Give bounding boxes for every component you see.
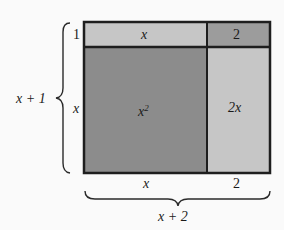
label-top-left: x	[141, 28, 147, 42]
bottom-brace-icon	[85, 191, 270, 206]
label-bottom-total: x + 2	[158, 210, 188, 224]
label-col-right: 2	[233, 177, 240, 191]
label-row-top: 1	[73, 28, 80, 42]
label-left-total: x + 1	[16, 92, 46, 106]
label-bottom-right: 2x	[228, 101, 241, 115]
label-row-bottom: x	[73, 102, 79, 116]
left-brace-icon	[56, 23, 70, 173]
label-col-left: x	[143, 177, 149, 191]
label-top-right: 2	[233, 28, 240, 42]
label-bottom-left: x2	[138, 101, 149, 119]
